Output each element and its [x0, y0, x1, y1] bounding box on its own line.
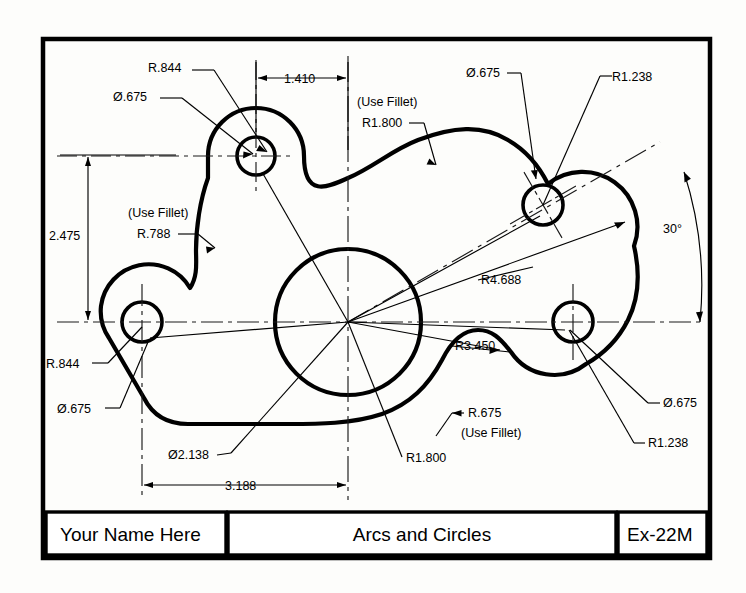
title-block-number-text: Ex-22M [627, 524, 692, 545]
annotation-text-group: R.844 Ø.675 1.410 (Use Fillet) R1.800 Ø.… [46, 61, 697, 493]
leader-r1238-lr-arrow [569, 330, 634, 443]
arrow-2475-bottom [85, 311, 91, 320]
technical-drawing-canvas: R.844 Ø.675 1.410 (Use Fillet) R1.800 Ø.… [0, 0, 746, 593]
annotation-r1238-upper-right: R1.238 [612, 70, 652, 84]
leader-r788-arrow [198, 234, 215, 248]
annotation-r788-left: R.788 [137, 227, 170, 241]
annotation-dia675-upper-left: Ø.675 [113, 90, 147, 104]
arrow-r675 [452, 410, 462, 416]
arrow-30deg-bottom [696, 312, 703, 322]
annotation-dim-1410: 1.410 [284, 72, 315, 86]
arrow-30deg-top [684, 172, 691, 183]
arrow-3188-left [144, 482, 153, 488]
annotation-r1800-top: R1.800 [362, 116, 402, 130]
leader-dia2138 [231, 322, 348, 453]
annotation-use-fillet-top: (Use Fillet) [357, 95, 417, 109]
leader-r1800-top-arrow [424, 123, 436, 165]
radial-to-lr-hole [348, 322, 565, 330]
radial-to-ur-hole [348, 216, 540, 322]
annotation-r1238-lower-right: R1.238 [648, 436, 688, 450]
annotation-angle-30: 30° [663, 222, 682, 236]
title-block: Your Name Here Arcs and Circles Ex-22M [46, 512, 707, 555]
leader-dia2138-tail [217, 453, 231, 455]
leader-r844-ul-arrow [214, 70, 267, 152]
annotation-r3450: R3.450 [455, 339, 495, 353]
title-block-name-text: Your Name Here [60, 524, 201, 545]
arrow-1410-left [258, 75, 267, 81]
title-block-title-text: Arcs and Circles [353, 524, 491, 545]
annotation-r675-bottom: R.675 [468, 406, 501, 420]
annotation-dia675-upper-right: Ø.675 [466, 66, 500, 80]
leader-r1800-bottom-tail [400, 452, 402, 457]
leader-r1238-ur-arrow [543, 76, 600, 205]
drawing-sheet: R.844 Ø.675 1.410 (Use Fillet) R1.800 Ø.… [0, 0, 746, 593]
arrow-3188-right [337, 482, 346, 488]
annotation-dim-2475: 2.475 [49, 229, 80, 243]
annotation-dim-3188: 3.188 [225, 479, 256, 493]
radial-to-ll-hole [150, 322, 348, 338]
leader-dia675-ul-arrow [182, 98, 253, 154]
annotation-use-fillet-left: (Use Fillet) [128, 206, 188, 220]
annotation-r1800-bottom: R1.800 [406, 451, 446, 465]
angular-dim-arc [684, 172, 702, 322]
leader-dia675-ur-arrow [521, 73, 536, 179]
arrow-2475-top [85, 157, 91, 166]
annotation-r844-upper-left: R.844 [148, 61, 181, 75]
annotation-r4688: R4.688 [481, 273, 521, 287]
centerline-30-degree [348, 142, 660, 322]
leader-r675-tail [436, 413, 452, 436]
annotation-use-fillet-bottom: (Use Fillet) [461, 426, 521, 440]
leader-r1800-bottom [348, 322, 400, 452]
arrow-1410-right [337, 75, 346, 81]
radial-to-ul-hole [262, 172, 348, 322]
arrow-dia675-ur [531, 170, 538, 179]
annotation-r844-lower-left: R.844 [46, 357, 79, 371]
annotation-dia2138: Ø2.138 [168, 448, 209, 462]
annotation-dia675-lower-left: Ø.675 [57, 402, 91, 416]
annotation-dia675-lower-right: Ø.675 [663, 396, 697, 410]
